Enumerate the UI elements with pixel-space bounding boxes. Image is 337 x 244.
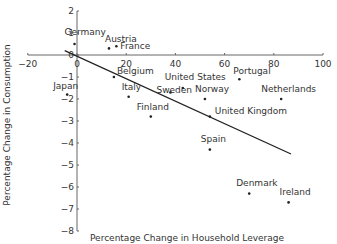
point-label: Finland xyxy=(137,102,169,112)
point-label: Denmark xyxy=(236,178,278,188)
scatter-chart: −20020406080100210−1−2−3−4−5−6−7−8 Germa… xyxy=(0,0,337,244)
data-point: Netherlands xyxy=(261,84,316,100)
data-point: Norway xyxy=(195,84,230,100)
point-label: Italy xyxy=(122,82,142,92)
y-tick-label: −6 xyxy=(61,182,75,192)
data-point: Denmark xyxy=(236,178,278,195)
x-tick-label: 0 xyxy=(74,59,80,69)
x-tick-label: 40 xyxy=(170,59,182,69)
point-label: Germany xyxy=(65,27,107,37)
y-tick-label: 2 xyxy=(68,6,74,16)
y-tick-label: −3 xyxy=(61,116,74,126)
x-tick-label: 60 xyxy=(219,59,231,69)
y-tick-label: −8 xyxy=(61,226,75,236)
data-point: Ireland xyxy=(280,187,311,203)
point-label: France xyxy=(120,41,150,51)
x-tick-label: −20 xyxy=(18,59,37,69)
y-tick-label: −4 xyxy=(61,138,75,148)
data-point: Portugal xyxy=(233,66,270,80)
point-label: Spain xyxy=(201,134,226,144)
data-point: Finland xyxy=(137,102,169,118)
data-point: France xyxy=(115,41,151,51)
data-point: Germany xyxy=(65,27,107,45)
data-points: GermanyAustriaFranceJapanBelgiumItalyFin… xyxy=(52,27,316,204)
x-tick-label: 100 xyxy=(314,59,331,69)
point-label: Sweden xyxy=(156,85,192,95)
data-point: Italy xyxy=(122,82,142,98)
y-tick-label: −5 xyxy=(61,160,74,170)
data-point: United Kingdom xyxy=(209,106,288,118)
point-label: Norway xyxy=(195,84,230,94)
data-point: Spain xyxy=(201,134,226,151)
point-label: Ireland xyxy=(280,187,311,197)
point-label: Japan xyxy=(52,81,78,91)
point-label: United Kingdom xyxy=(215,106,287,116)
point-label: United States xyxy=(165,72,226,82)
data-point: Belgium xyxy=(113,66,154,78)
point-label: Belgium xyxy=(117,66,154,76)
x-axis-title: Percentage Change in Household Leverage xyxy=(90,233,285,243)
data-point: Sweden xyxy=(156,85,192,95)
y-axis-title: Percentage Change in Consumption xyxy=(2,44,12,205)
point-label: Portugal xyxy=(233,66,270,76)
point-label: Netherlands xyxy=(261,84,316,94)
axes: −20020406080100210−1−2−3−4−5−6−7−8 xyxy=(18,6,332,236)
y-tick-label: −7 xyxy=(61,204,74,214)
